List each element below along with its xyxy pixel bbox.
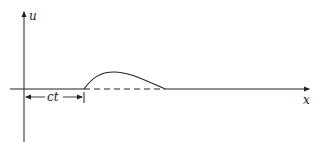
u-axis-label: u (29, 9, 37, 23)
wave-pulse-diagram: u x ct (0, 0, 321, 155)
x-axis-label: x (303, 93, 310, 107)
wave-pulse-curve (84, 72, 165, 89)
ct-label: ct (47, 90, 59, 104)
